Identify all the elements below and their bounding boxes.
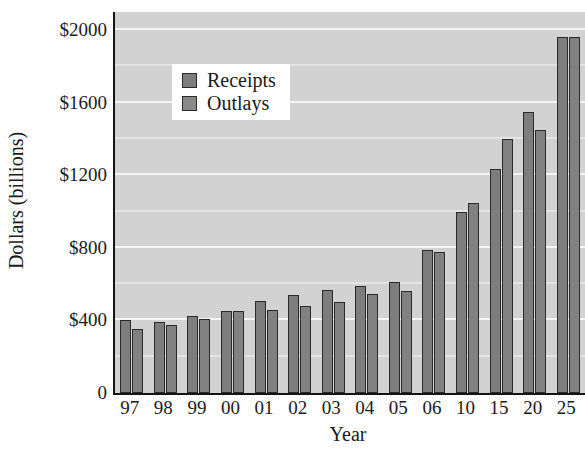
bar-receipts-99 bbox=[187, 316, 198, 393]
bar-outlays-02 bbox=[300, 306, 311, 393]
legend-item-receipts: Receipts bbox=[182, 70, 276, 91]
bar-outlays-20 bbox=[535, 130, 546, 393]
bar-outlays-06 bbox=[434, 252, 445, 393]
legend-swatch-receipts bbox=[182, 73, 197, 88]
y-tick-label: $2000 bbox=[60, 19, 108, 41]
bar-outlays-00 bbox=[233, 311, 244, 393]
bar-outlays-05 bbox=[401, 291, 412, 394]
bar-receipts-06 bbox=[422, 250, 433, 393]
legend-label-outlays: Outlays bbox=[207, 93, 269, 114]
bar-chart-figure: Dollars (billions) 0$400$800$1200$1600$2… bbox=[0, 0, 585, 450]
bar-outlays-25 bbox=[569, 37, 580, 393]
x-tick-label: 05 bbox=[389, 397, 408, 419]
y-tick-label: $800 bbox=[69, 237, 107, 259]
x-tick-label: 20 bbox=[523, 397, 542, 419]
y-tick-label: $1600 bbox=[60, 92, 108, 114]
x-tick-label: 15 bbox=[490, 397, 509, 419]
bar-receipts-20 bbox=[523, 112, 534, 393]
y-axis-title-text: Dollars (billions) bbox=[6, 131, 29, 268]
x-tick-label: 25 bbox=[557, 397, 576, 419]
x-axis-title: Year bbox=[113, 423, 583, 446]
y-axis-tick-labels: 0$400$800$1200$1600$2000 bbox=[34, 0, 113, 450]
bar-outlays-15 bbox=[502, 139, 513, 393]
bar-receipts-97 bbox=[120, 320, 131, 393]
y-tick-label: 0 bbox=[98, 382, 108, 404]
bar-outlays-97 bbox=[132, 329, 143, 393]
bar-receipts-04 bbox=[355, 286, 366, 393]
legend: Receipts Outlays bbox=[172, 64, 290, 120]
x-tick-label: 03 bbox=[322, 397, 341, 419]
bar-outlays-01 bbox=[267, 310, 278, 393]
y-tick-label: $1200 bbox=[60, 164, 108, 186]
bar-outlays-10 bbox=[468, 203, 479, 393]
x-tick-label: 01 bbox=[255, 397, 274, 419]
x-tick-label: 06 bbox=[422, 397, 441, 419]
y-axis-title: Dollars (billions) bbox=[0, 0, 34, 400]
y-tick-label: $400 bbox=[69, 309, 107, 331]
x-tick-label: 98 bbox=[154, 397, 173, 419]
legend-label-receipts: Receipts bbox=[207, 70, 276, 91]
bar-receipts-01 bbox=[255, 301, 266, 393]
bar-receipts-25 bbox=[557, 37, 568, 393]
bar-receipts-15 bbox=[490, 169, 501, 393]
bar-receipts-98 bbox=[154, 322, 165, 393]
x-tick-label: 99 bbox=[187, 397, 206, 419]
bar-outlays-03 bbox=[334, 302, 345, 393]
legend-swatch-outlays bbox=[182, 96, 197, 111]
bar-outlays-04 bbox=[367, 294, 378, 393]
bar-receipts-03 bbox=[322, 290, 333, 393]
x-tick-label: 00 bbox=[221, 397, 240, 419]
bar-outlays-99 bbox=[199, 319, 210, 393]
bar-receipts-05 bbox=[389, 282, 400, 393]
bar-receipts-00 bbox=[221, 311, 232, 393]
legend-item-outlays: Outlays bbox=[182, 93, 276, 114]
x-axis-tick-labels: 9798990001020304050610152025 bbox=[113, 397, 583, 425]
x-tick-label: 10 bbox=[456, 397, 475, 419]
x-tick-label: 04 bbox=[355, 397, 374, 419]
bar-receipts-02 bbox=[288, 295, 299, 393]
bar-receipts-10 bbox=[456, 212, 467, 393]
x-tick-label: 02 bbox=[288, 397, 307, 419]
bar-outlays-98 bbox=[166, 325, 177, 393]
x-tick-label: 97 bbox=[120, 397, 139, 419]
